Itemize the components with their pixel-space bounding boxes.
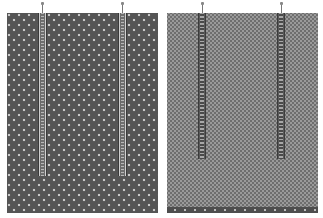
source-marker-icon xyxy=(281,3,282,13)
right-panel-rod-1 xyxy=(198,13,206,159)
source-marker-icon xyxy=(42,3,43,13)
source-marker-icon xyxy=(202,3,203,13)
left-panel-rod-2 xyxy=(118,13,127,176)
right-panel-bottom-strip xyxy=(167,207,318,213)
right-panel-rod-2 xyxy=(277,13,285,159)
left-panel-rod-1 xyxy=(38,13,47,176)
right-lattice-panel xyxy=(167,13,318,207)
source-marker-icon xyxy=(122,3,123,13)
left-lattice-panel xyxy=(7,13,158,213)
